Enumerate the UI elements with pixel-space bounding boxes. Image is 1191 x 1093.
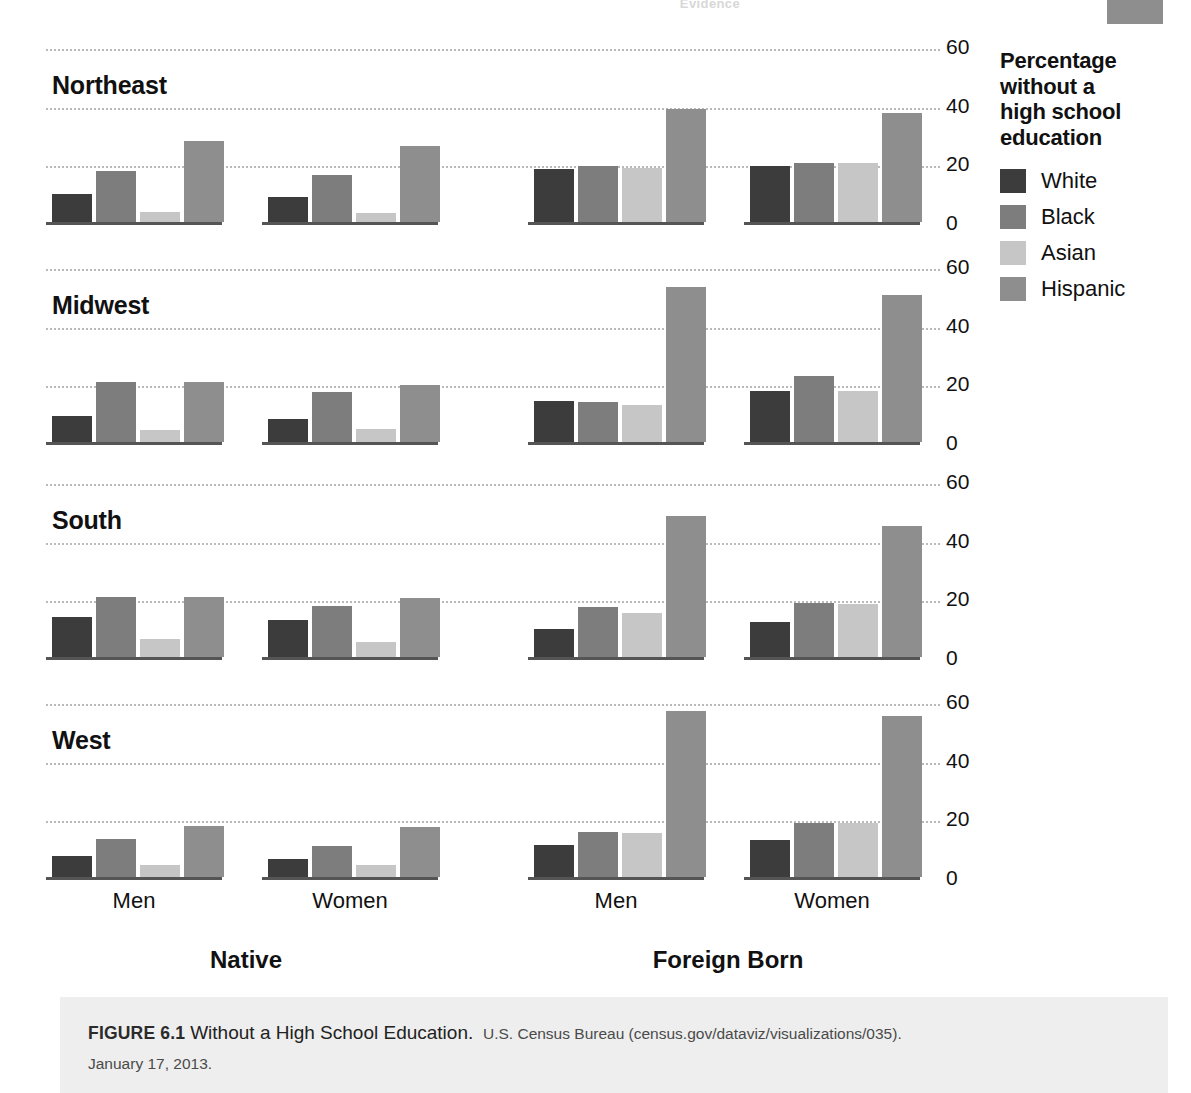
bar-group-midwest-native-women bbox=[262, 266, 438, 445]
bar-white[interactable] bbox=[750, 840, 790, 877]
legend-item-asian[interactable]: Asian bbox=[1000, 240, 1190, 267]
bar-hispanic[interactable] bbox=[184, 382, 224, 442]
bars bbox=[534, 701, 706, 877]
bar-white[interactable] bbox=[268, 419, 308, 442]
bar-black[interactable] bbox=[794, 163, 834, 222]
bar-group-south-foreign-born-women bbox=[744, 481, 920, 660]
bar-white[interactable] bbox=[52, 856, 92, 877]
bar-white[interactable] bbox=[534, 401, 574, 442]
legend-label-hispanic: Hispanic bbox=[1041, 276, 1125, 302]
bars bbox=[750, 46, 922, 222]
legend-swatch-black bbox=[1000, 205, 1026, 229]
bar-black[interactable] bbox=[578, 402, 618, 442]
bar-white[interactable] bbox=[52, 617, 92, 657]
bar-asian[interactable] bbox=[356, 213, 396, 222]
bar-black[interactable] bbox=[96, 382, 136, 442]
bar-hispanic[interactable] bbox=[400, 146, 440, 222]
bars bbox=[268, 481, 440, 657]
bar-asian[interactable] bbox=[838, 391, 878, 442]
baseline bbox=[262, 442, 438, 445]
bar-black[interactable] bbox=[96, 839, 136, 877]
figure-caption: FIGURE 6.1 Without a High School Educati… bbox=[88, 1018, 1088, 1077]
bars bbox=[268, 266, 440, 442]
bar-black[interactable] bbox=[794, 376, 834, 442]
bar-asian[interactable] bbox=[356, 429, 396, 442]
caption-date: January 17, 2013. bbox=[88, 1055, 212, 1072]
legend-item-hispanic[interactable]: Hispanic bbox=[1000, 276, 1190, 303]
bar-hispanic[interactable] bbox=[666, 516, 706, 657]
bar-asian[interactable] bbox=[838, 604, 878, 657]
bar-black[interactable] bbox=[312, 606, 352, 657]
y-tick-midwest-60: 60 bbox=[946, 255, 992, 279]
bar-hispanic[interactable] bbox=[184, 597, 224, 657]
bar-group-west-foreign-born-women: Women bbox=[744, 701, 920, 880]
bar-white[interactable] bbox=[52, 194, 92, 222]
bar-black[interactable] bbox=[578, 166, 618, 222]
bar-asian[interactable] bbox=[140, 430, 180, 442]
bar-asian[interactable] bbox=[622, 405, 662, 442]
bar-hispanic[interactable] bbox=[882, 716, 922, 877]
bar-white[interactable] bbox=[534, 169, 574, 222]
baseline bbox=[46, 222, 222, 225]
bar-black[interactable] bbox=[312, 846, 352, 877]
bar-asian[interactable] bbox=[356, 642, 396, 657]
y-tick-northeast-60: 60 bbox=[946, 35, 992, 59]
bar-black[interactable] bbox=[794, 603, 834, 657]
bar-hispanic[interactable] bbox=[184, 141, 224, 222]
legend-item-black[interactable]: Black bbox=[1000, 204, 1190, 231]
region-label-northeast: Northeast bbox=[52, 71, 167, 100]
bar-group-west-native-women: Women bbox=[262, 701, 438, 880]
bar-white[interactable] bbox=[750, 391, 790, 442]
bar-hispanic[interactable] bbox=[400, 385, 440, 442]
bar-hispanic[interactable] bbox=[184, 826, 224, 877]
bar-white[interactable] bbox=[268, 859, 308, 877]
bar-asian[interactable] bbox=[838, 163, 878, 222]
bar-asian[interactable] bbox=[140, 639, 180, 657]
baseline bbox=[528, 657, 704, 660]
bar-black[interactable] bbox=[96, 171, 136, 222]
bar-black[interactable] bbox=[312, 175, 352, 222]
bar-white[interactable] bbox=[750, 166, 790, 222]
legend-title: Percentagewithout ahigh schooleducation bbox=[1000, 48, 1190, 151]
bar-white[interactable] bbox=[534, 629, 574, 657]
bar-asian[interactable] bbox=[838, 823, 878, 877]
bar-white[interactable] bbox=[52, 416, 92, 442]
bar-black[interactable] bbox=[96, 597, 136, 657]
bar-group-northeast-foreign-born-women bbox=[744, 46, 920, 225]
bar-white[interactable] bbox=[268, 197, 308, 222]
bar-hispanic[interactable] bbox=[400, 827, 440, 877]
bar-black[interactable] bbox=[578, 607, 618, 657]
bar-asian[interactable] bbox=[622, 833, 662, 877]
bar-white[interactable] bbox=[750, 622, 790, 657]
bar-hispanic[interactable] bbox=[882, 295, 922, 442]
bar-hispanic[interactable] bbox=[666, 109, 706, 222]
legend-title-line-0: Percentage bbox=[1000, 48, 1190, 74]
bar-asian[interactable] bbox=[622, 168, 662, 222]
bar-asian[interactable] bbox=[140, 865, 180, 877]
bar-white[interactable] bbox=[268, 620, 308, 657]
section-label-foreign-born: Foreign Born bbox=[528, 946, 928, 974]
bar-asian[interactable] bbox=[356, 865, 396, 877]
bar-hispanic[interactable] bbox=[666, 711, 706, 877]
chart-legend: Percentagewithout ahigh schooleducation … bbox=[1000, 48, 1190, 312]
bar-hispanic[interactable] bbox=[882, 526, 922, 657]
caption-figure-number: FIGURE 6.1 bbox=[88, 1023, 185, 1043]
y-tick-west-0: 0 bbox=[946, 866, 992, 890]
bar-white[interactable] bbox=[534, 845, 574, 877]
bar-black[interactable] bbox=[578, 832, 618, 877]
y-tick-northeast-40: 40 bbox=[946, 94, 992, 118]
bar-black[interactable] bbox=[312, 392, 352, 442]
baseline bbox=[744, 222, 920, 225]
legend-item-white[interactable]: White bbox=[1000, 168, 1190, 195]
baseline bbox=[744, 877, 920, 880]
bar-hispanic[interactable] bbox=[882, 113, 922, 222]
bar-black[interactable] bbox=[794, 823, 834, 877]
bar-asian[interactable] bbox=[140, 212, 180, 222]
panel-south-foreign-born bbox=[528, 481, 928, 673]
bar-hispanic[interactable] bbox=[666, 287, 706, 442]
bars bbox=[534, 481, 706, 657]
y-tick-midwest-20: 20 bbox=[946, 372, 992, 396]
bar-hispanic[interactable] bbox=[400, 598, 440, 657]
bar-group-northeast-native-women bbox=[262, 46, 438, 225]
bar-asian[interactable] bbox=[622, 613, 662, 657]
